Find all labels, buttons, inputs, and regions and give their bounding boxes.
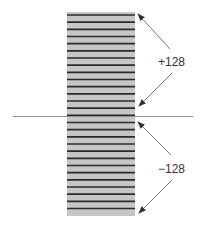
arrow-lower-bottom (139, 180, 172, 213)
arrow-lower-top (138, 122, 171, 155)
arrow-upper-bottom (139, 73, 172, 106)
striped-block (67, 12, 135, 216)
upper-range-label: +128 (158, 56, 185, 68)
diagram-canvas (0, 0, 201, 229)
lower-range-label: −128 (158, 163, 185, 175)
arrow-upper-top (138, 14, 170, 49)
